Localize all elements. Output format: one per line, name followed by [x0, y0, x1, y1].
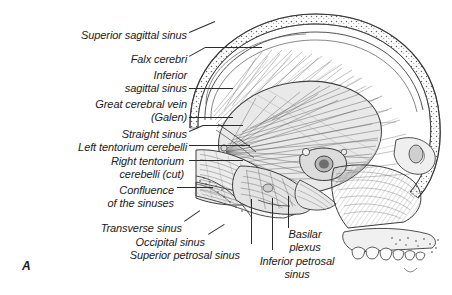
leader-great-cerebral-vein [189, 117, 233, 118]
label-line: Transverse sinus [101, 222, 182, 235]
leader-left-tentorium [189, 145, 250, 146]
sphenoid-sella-group [300, 148, 347, 181]
label-great-cerebral-vein-galen: Great cerebral vein(Galen) [95, 98, 187, 123]
leader-occipital-sinus [208, 224, 225, 235]
label-falx-cerebri: Falx cerebri [131, 53, 187, 66]
leader-right-tentorium [189, 160, 243, 161]
label-line: Superior sagittal sinus [81, 29, 187, 42]
confluence-of-sinuses-shape [196, 176, 252, 218]
label-line: Confluence [108, 184, 174, 197]
label-line: Inferior [125, 69, 187, 82]
leader-falx-cerebri [189, 47, 205, 57]
sphenoid-body-maxilla-group [332, 138, 436, 228]
label-line: Inferior petrosal [260, 255, 335, 268]
tentorium-dome-group [210, 70, 390, 206]
label-occipital-sinus: Occipital sinus [136, 236, 205, 249]
label-line: sinus [260, 268, 335, 281]
label-line: Great cerebral vein [95, 98, 187, 111]
label-line: cerebelli (cut) [111, 168, 184, 181]
label-right-tentorium-cerebelli-cut: Right tentoriumcerebelli (cut) [111, 155, 184, 180]
label-inferior-petrosal-sinus: Inferior petrosalsinus [260, 255, 335, 280]
label-superior-sagittal-sinus: Superior sagittal sinus [81, 29, 187, 42]
label-transverse-sinus: Transverse sinus [101, 222, 182, 235]
left-tentorium-cerebelli-shape [196, 150, 279, 205]
label-line: Occipital sinus [136, 236, 205, 249]
figure-letter-a: A [22, 259, 31, 273]
label-line: Straight sinus [122, 128, 187, 141]
leader-falx-cerebri-run [205, 47, 262, 48]
label-basilar-plexus: Basilarplexus [289, 228, 322, 253]
leader-straight-sinus-run [203, 125, 243, 126]
label-line: of the sinuses [108, 197, 174, 210]
leader-basilar-plexus [288, 196, 289, 228]
leader-confluence [177, 187, 213, 188]
label-line: Falx cerebri [131, 53, 187, 66]
basilar-plexus-clivus [295, 180, 336, 210]
label-straight-sinus: Straight sinus [122, 128, 187, 141]
label-line: Superior petrosal sinus [130, 249, 240, 262]
label-left-tentorium-cerebelli: Left tentorium cerebelli [78, 141, 187, 154]
label-line: Right tentorium [111, 155, 184, 168]
superior-sagittal-sinus-shape [205, 32, 423, 120]
leader-superior-petrosal-sinus [251, 199, 252, 244]
leader-transverse-sinus [184, 210, 201, 222]
anatomy-figure-panel: Superior sagittal sinusFalx cerebriInfer… [0, 0, 452, 295]
label-line: sagittal sinus [125, 82, 187, 95]
straight-sinus-shape [216, 124, 256, 158]
label-confluence-of-the-sinuses: Confluenceof the sinuses [108, 184, 174, 209]
label-line: Basilar [289, 228, 322, 241]
label-superior-petrosal-sinus: Superior petrosal sinus [130, 249, 240, 262]
inferior-petrosal-sinus-shape [258, 200, 290, 206]
cranial-vault-group [190, 14, 440, 198]
label-line: plexus [289, 241, 322, 254]
label-line: (Galen) [95, 111, 187, 124]
label-line: Left tentorium cerebelli [78, 141, 187, 154]
leader-inferior-petrosal-sinus [272, 198, 273, 250]
maxilla-teeth-group [343, 228, 439, 272]
label-inferior-sagittal-sinus: Inferiorsagittal sinus [125, 69, 187, 94]
leader-inferior-sagittal-sinus [189, 88, 233, 89]
leader-straight-sinus [189, 125, 203, 132]
leader-superior-sagittal-sinus [189, 21, 215, 33]
